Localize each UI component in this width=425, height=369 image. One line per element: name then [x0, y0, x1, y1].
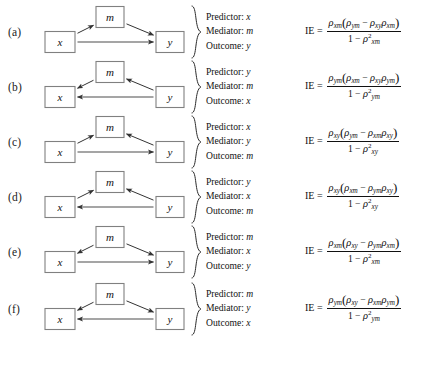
role-label-predictor: Predictor:: [206, 121, 244, 132]
role-line-predictor: Predictor: m: [206, 230, 253, 244]
formula-denominator: 1 − ρ2xy: [346, 197, 380, 210]
formula-numerator: ρxy(ρym − ρxmρxy): [327, 126, 400, 141]
role-label-mediator: Mediator:: [206, 245, 244, 256]
formula-denominator: 1 − ρ2xy: [346, 142, 380, 155]
role-label-outcome: Outcome:: [206, 150, 244, 161]
role-value-mediator: m: [246, 80, 253, 91]
role-assignments: Predictor: yMediator: mOutcome: x: [206, 65, 253, 108]
formula-fraction: ρxm(ρxy − ρymρxm)1 − ρ2xm: [327, 236, 402, 265]
role-assignments: Predictor: xMediator: yOutcome: m: [206, 120, 253, 163]
role-label-outcome: Outcome:: [206, 95, 244, 106]
role-line-outcome: Outcome: y: [206, 39, 253, 53]
diagram-container: xmy: [38, 169, 190, 224]
role-value-mediator: x: [246, 245, 250, 256]
indirect-effect-formula: IE =ρxy(ρym − ρxmρxy)1 − ρ2xy: [305, 126, 399, 155]
role-line-mediator: Mediator: m: [206, 79, 253, 93]
formula-numerator: ρym(ρxy − ρxmρym): [327, 293, 402, 308]
panel-label: (f): [8, 303, 20, 315]
role-value-outcome: x: [246, 317, 250, 328]
edge-m-to-x: [78, 302, 94, 310]
diagram-container: xmy: [38, 224, 190, 279]
edge-m-to-x: [78, 245, 94, 253]
indirect-effect-formula: IE =ρxy(ρxm − ρymρxy)1 − ρ2xy: [305, 181, 399, 210]
formula-denominator: 1 − ρ2ym: [346, 309, 382, 322]
role-value-predictor: x: [246, 11, 250, 22]
diagram-container: xmy: [38, 59, 190, 114]
formula-fraction: ρxm(ρym − ρxyρxm)1 − ρ2xm: [327, 16, 402, 45]
curly-brace: [190, 5, 204, 59]
role-line-outcome: Outcome: y: [206, 259, 253, 273]
role-label-predictor: Predictor:: [206, 176, 244, 187]
role-label-outcome: Outcome:: [206, 317, 244, 328]
edge-x-to-m: [78, 190, 94, 198]
path-diagram: xmy: [38, 114, 190, 169]
role-line-outcome: Outcome: x: [206, 316, 253, 330]
panel-label: (c): [8, 136, 21, 148]
path-diagram: xmy: [38, 4, 190, 59]
node-label-x: x: [57, 313, 63, 325]
node-label-y: y: [167, 201, 173, 213]
path-diagram: xmy: [38, 59, 190, 114]
model-row-a: (a)xmyPredictor: xMediator: mOutcome: yI…: [0, 4, 425, 59]
node-label-y: y: [167, 36, 173, 48]
node-label-y: y: [167, 313, 173, 325]
brace-container: [190, 5, 204, 59]
role-value-predictor: m: [246, 231, 253, 242]
indirect-effect-formula: IE =ρym(ρxm − ρxyρym)1 − ρ2ym: [305, 71, 401, 100]
role-value-mediator: y: [246, 135, 250, 146]
curly-brace: [190, 170, 204, 224]
role-label-outcome: Outcome:: [206, 40, 244, 51]
role-line-outcome: Outcome: x: [206, 94, 253, 108]
role-label-predictor: Predictor:: [206, 11, 244, 22]
role-value-predictor: x: [246, 121, 250, 132]
node-label-x: x: [57, 201, 63, 213]
role-line-predictor: Predictor: y: [206, 175, 253, 189]
panel-label: (d): [8, 191, 22, 203]
role-line-predictor: Predictor: x: [206, 10, 253, 24]
role-value-outcome: m: [246, 205, 253, 216]
path-diagram: xmy: [38, 281, 190, 336]
panel-label: (a): [8, 26, 21, 38]
path-diagram: xmy: [38, 224, 190, 279]
formula-fraction: ρxy(ρym − ρxmρxy)1 − ρ2xy: [327, 126, 400, 155]
role-label-mediator: Mediator:: [206, 80, 244, 91]
role-value-mediator: y: [246, 302, 250, 313]
role-line-mediator: Mediator: m: [206, 24, 253, 38]
role-assignments: Predictor: mMediator: yOutcome: x: [206, 287, 253, 330]
role-value-outcome: x: [246, 95, 250, 106]
role-assignments: Predictor: mMediator: xOutcome: y: [206, 230, 253, 273]
indirect-effect-formula: IE =ρxm(ρym − ρxyρxm)1 − ρ2xm: [305, 16, 401, 45]
role-label-mediator: Mediator:: [206, 135, 244, 146]
role-label-mediator: Mediator:: [206, 25, 244, 36]
curly-brace: [190, 115, 204, 169]
diagram-container: xmy: [38, 281, 190, 336]
curly-brace: [190, 225, 204, 279]
node-label-x: x: [57, 256, 63, 268]
formula-lhs: IE =: [305, 25, 323, 36]
formula-denominator: 1 − ρ2xm: [346, 32, 382, 45]
node-label-y: y: [167, 256, 173, 268]
formula-denominator: 1 − ρ2xm: [346, 252, 382, 265]
role-line-mediator: Mediator: x: [206, 189, 253, 203]
node-label-m: m: [106, 288, 114, 300]
role-label-outcome: Outcome:: [206, 205, 244, 216]
node-label-m: m: [106, 11, 114, 23]
formula-numerator: ρxm(ρym − ρxyρxm): [327, 16, 402, 31]
role-assignments: Predictor: xMediator: mOutcome: y: [206, 10, 253, 53]
formula-numerator: ρxy(ρxm − ρymρxy): [327, 181, 400, 196]
node-label-x: x: [57, 91, 63, 103]
edge-x-to-m: [78, 135, 94, 143]
role-label-mediator: Mediator:: [206, 302, 244, 313]
node-label-m: m: [106, 176, 114, 188]
model-row-c: (c)xmyPredictor: xMediator: yOutcome: mI…: [0, 114, 425, 169]
role-label-outcome: Outcome:: [206, 260, 244, 271]
role-value-predictor: y: [246, 176, 250, 187]
formula-fraction: ρym(ρxy − ρxmρym)1 − ρ2ym: [327, 293, 402, 322]
role-value-mediator: x: [246, 190, 250, 201]
role-value-predictor: y: [246, 66, 250, 77]
formula-lhs: IE =: [305, 245, 323, 256]
role-line-outcome: Outcome: m: [206, 149, 253, 163]
node-label-y: y: [167, 91, 173, 103]
diagram-container: xmy: [38, 4, 190, 59]
role-label-predictor: Predictor:: [206, 231, 244, 242]
